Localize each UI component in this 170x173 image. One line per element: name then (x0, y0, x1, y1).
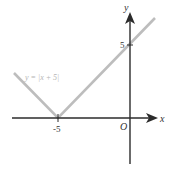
origin-label: O (120, 121, 127, 132)
y-tick-label-5: 5 (120, 40, 125, 50)
x-tick-label-minus-5: -5 (53, 124, 61, 134)
function-label: y = |x + 5| (24, 73, 59, 82)
x-axis-label: x (159, 113, 165, 124)
y-axis-label: y (123, 2, 129, 13)
function-graph-line (14, 18, 155, 118)
graph-plot: y x O -5 5 y = |x + 5| (0, 0, 170, 173)
